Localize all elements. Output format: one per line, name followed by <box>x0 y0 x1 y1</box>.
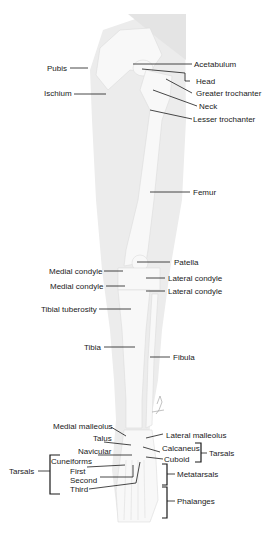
label-fibula: Fibula <box>173 353 195 362</box>
label-medial-condyle-femur: Medial condyle <box>49 267 103 276</box>
label-calcaneus: Calcaneus <box>162 444 200 453</box>
knee-condyles <box>118 268 160 290</box>
label-lesser-trochanter: Lesser trochanter <box>193 115 256 124</box>
label-talus: Talus <box>93 434 112 443</box>
label-cuboid: Cuboid <box>164 455 189 464</box>
label-neck: Neck <box>199 102 218 111</box>
label-lateral-condyle-tibia: Lateral condyle <box>168 287 223 296</box>
label-pubis: Pubis <box>47 64 67 73</box>
label-navicular: Navicular <box>78 447 112 456</box>
label-cuneiforms: Cuneiforms <box>51 457 92 466</box>
label-lateral-malleolus: Lateral malleolus <box>166 431 226 440</box>
lower-limb-diagram: Pubis Ischium Acetabulum Head Greater tr… <box>0 0 267 546</box>
label-tibial-tuberosity: Tibial tuberosity <box>41 305 97 314</box>
label-greater-trochanter: Greater trochanter <box>196 89 262 98</box>
label-metatarsals: Metatarsals <box>177 470 218 479</box>
label-femur: Femur <box>193 188 216 197</box>
label-tarsals-right: Tarsals <box>209 449 234 458</box>
label-second: Second <box>70 476 97 485</box>
label-ischium: Ischium <box>44 89 72 98</box>
label-head: Head <box>196 77 215 86</box>
label-third: Third <box>70 485 88 494</box>
label-first: First <box>70 467 86 476</box>
label-medial-condyle-tibia: Medial condyle <box>50 282 104 291</box>
label-patella: Patella <box>174 258 199 267</box>
label-lateral-condyle-femur: Lateral condyle <box>168 274 223 283</box>
label-phalanges: Phalanges <box>177 497 215 506</box>
label-medial-malleolus: Medial malleolus <box>53 422 113 431</box>
label-tibia: Tibia <box>84 343 102 352</box>
label-tarsals-left: Tarsals <box>9 467 34 476</box>
label-acetabulum: Acetabulum <box>194 60 237 69</box>
